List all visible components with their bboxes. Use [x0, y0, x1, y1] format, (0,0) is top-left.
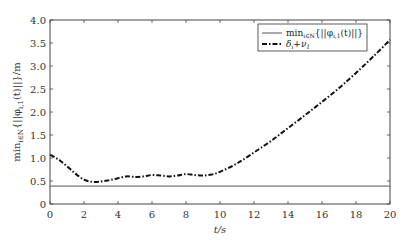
legend-entry-min-phi: mini∈N{||φi,1(t)||}	[286, 28, 363, 39]
x-tick-label: 6	[149, 209, 155, 220]
x-tick-label: 18	[350, 209, 363, 220]
series-delta-nu-line	[50, 40, 390, 182]
y-axis-label-rest: {||φ	[11, 109, 23, 129]
y-axis-label-sub2: i,1	[17, 100, 25, 109]
x-tick-label: 14	[282, 209, 295, 220]
x-tick-label: 10	[214, 209, 227, 220]
y-tick-label: 2.5	[30, 84, 46, 95]
series-layer	[50, 40, 390, 186]
y-tick-label: 2.0	[30, 107, 46, 118]
y-tick-label: 3.0	[30, 61, 46, 72]
chart-svg: 02468101214161820 00.51.01.52.02.53.03.5…	[0, 0, 409, 245]
y-tick-label: 4.0	[30, 15, 46, 26]
y-tick-label: 1.5	[30, 130, 46, 141]
y-axis-label: mini∈N{||φi,1(t)||}/m	[11, 62, 25, 162]
legend: mini∈N{||φi,1(t)||} δi+ν1	[258, 24, 367, 51]
y-tick-label: 1.0	[30, 153, 46, 164]
x-tick-label: 4	[115, 209, 121, 220]
x-tick-label: 20	[384, 209, 397, 220]
x-tick-label: 16	[316, 209, 329, 220]
y-tick-label: 3.5	[30, 38, 46, 49]
y-tick-label: 0.5	[30, 176, 46, 187]
x-tick-label: 2	[81, 209, 87, 220]
y-tick-label: 0	[40, 199, 46, 210]
y-axis-label-tail: (t)||}/m	[11, 62, 23, 100]
x-tick-label: 0	[47, 209, 53, 220]
y-axis-label-main: min	[11, 142, 22, 162]
y-axis-label-sub: i∈N	[17, 129, 25, 143]
x-axis-label: t/s	[214, 224, 227, 235]
x-tick-label: 8	[183, 209, 189, 220]
x-tick-label: 12	[248, 209, 261, 220]
